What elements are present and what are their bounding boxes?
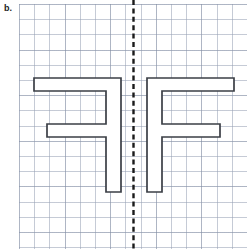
mirrored-f-shape xyxy=(34,78,121,192)
symmetry-figure-drawing xyxy=(0,0,247,249)
worksheet-figure-panel: b. xyxy=(0,0,247,249)
f-shape xyxy=(147,78,234,192)
